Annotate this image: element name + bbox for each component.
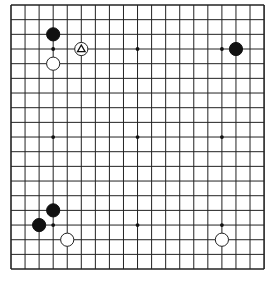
- black-stone[interactable]: [47, 28, 60, 41]
- go-board[interactable]: [0, 0, 270, 284]
- star-point: [220, 135, 224, 139]
- star-point: [51, 47, 55, 51]
- star-point: [220, 47, 224, 51]
- star-point: [136, 135, 140, 139]
- white-stone[interactable]: [75, 42, 88, 55]
- star-point: [51, 135, 55, 139]
- white-stone[interactable]: [61, 233, 74, 246]
- star-point: [220, 223, 224, 227]
- black-stone[interactable]: [33, 218, 46, 231]
- star-point: [136, 223, 140, 227]
- star-point: [51, 223, 55, 227]
- star-point: [136, 47, 140, 51]
- black-stone[interactable]: [229, 42, 242, 55]
- white-stone[interactable]: [215, 233, 228, 246]
- black-stone[interactable]: [47, 204, 60, 217]
- white-stone[interactable]: [47, 57, 60, 70]
